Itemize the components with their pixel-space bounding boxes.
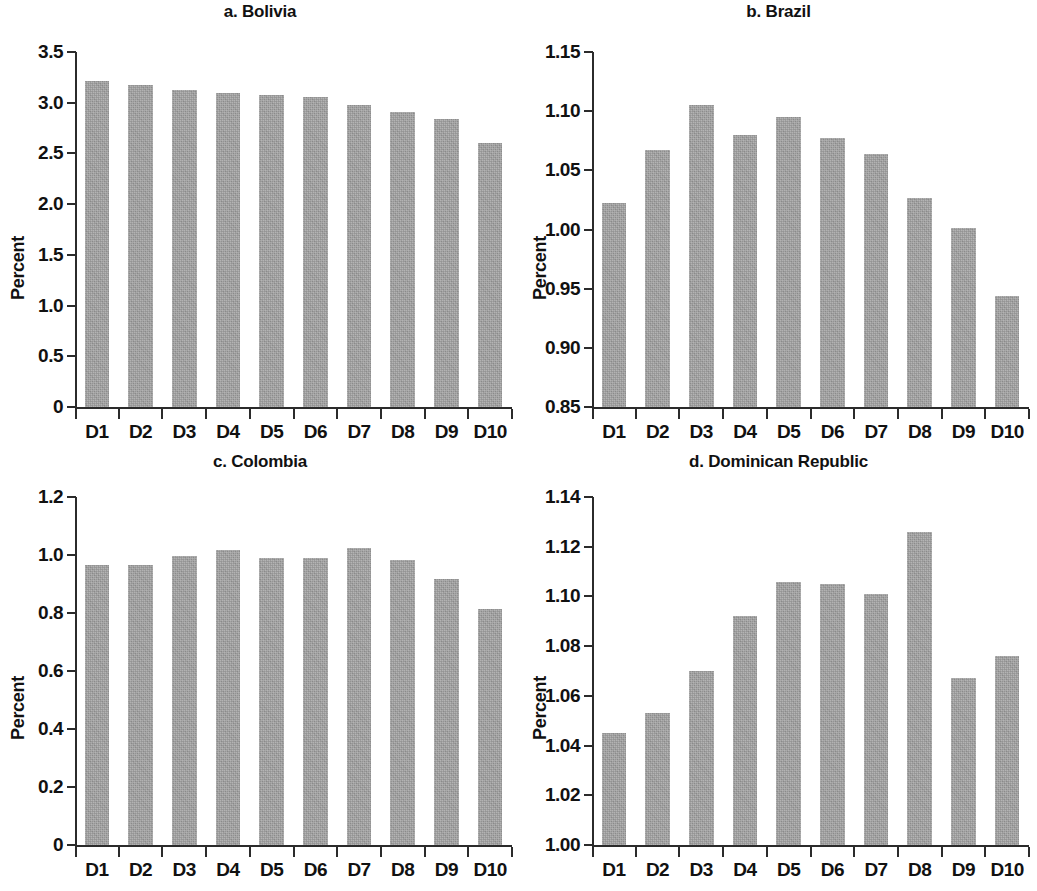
x-tick-label: D1 bbox=[85, 421, 108, 443]
y-tick-mark bbox=[584, 794, 593, 796]
bar bbox=[776, 582, 801, 845]
x-tick-label: D5 bbox=[260, 859, 283, 881]
bar bbox=[820, 138, 845, 407]
x-tick-mark bbox=[380, 409, 382, 419]
y-tick-mark bbox=[584, 347, 593, 349]
x-tick-label: D9 bbox=[435, 421, 458, 443]
x-tick-mark bbox=[511, 847, 513, 857]
x-tick-label: D5 bbox=[777, 421, 800, 443]
x-tick-mark bbox=[118, 409, 120, 419]
y-tick-mark bbox=[67, 51, 76, 53]
y-tick-label: 2.0 bbox=[1, 193, 63, 215]
x-tick-label: D10 bbox=[990, 859, 1023, 881]
bar bbox=[951, 228, 976, 407]
x-tick-label: D8 bbox=[908, 859, 931, 881]
panel-title: d. Dominican Republic bbox=[520, 452, 1037, 472]
bar bbox=[128, 85, 153, 407]
bar bbox=[864, 154, 889, 407]
y-tick-mark bbox=[584, 169, 593, 171]
figure-grid: a. Bolivia Percent 00.51.01.52.02.53.03.… bbox=[0, 0, 1037, 891]
bar bbox=[303, 558, 328, 845]
x-tick-mark bbox=[293, 847, 295, 857]
x-tick-label: D10 bbox=[473, 421, 506, 443]
y-tick-mark bbox=[584, 51, 593, 53]
bar bbox=[478, 143, 503, 407]
x-tick-mark bbox=[467, 847, 469, 857]
x-tick-mark bbox=[853, 409, 855, 419]
y-tick-mark bbox=[67, 406, 76, 408]
panel-title: b. Brazil bbox=[520, 2, 1037, 22]
bar bbox=[776, 117, 801, 407]
x-tick-label: D6 bbox=[304, 421, 327, 443]
x-tick-label: D1 bbox=[602, 859, 625, 881]
bar bbox=[85, 565, 110, 845]
bar bbox=[259, 95, 284, 407]
y-tick-label: 1.14 bbox=[514, 486, 580, 508]
y-tick-label: 1.2 bbox=[1, 486, 63, 508]
y-tick-label: 0.90 bbox=[514, 337, 580, 359]
bar bbox=[733, 135, 758, 407]
y-tick-label: 1.5 bbox=[1, 244, 63, 266]
x-tick-label: D2 bbox=[129, 421, 152, 443]
panel-title: c. Colombia bbox=[0, 452, 520, 472]
x-tick-mark bbox=[941, 847, 943, 857]
x-tick-mark bbox=[205, 409, 207, 419]
x-tick-mark-origin bbox=[592, 409, 594, 419]
y-tick-label: 0.4 bbox=[1, 718, 63, 740]
y-tick-label: 1.00 bbox=[514, 834, 580, 856]
bar bbox=[995, 296, 1020, 407]
y-tick-mark bbox=[584, 496, 593, 498]
plot-area: 00.20.40.60.81.01.2D1D2D3D4D5D6D7D8D9D10 bbox=[75, 497, 512, 845]
x-tick-label: D7 bbox=[864, 421, 887, 443]
y-tick-label: 1.06 bbox=[514, 685, 580, 707]
y-tick-mark bbox=[67, 102, 76, 104]
x-tick-label: D10 bbox=[473, 859, 506, 881]
x-tick-mark bbox=[635, 409, 637, 419]
x-tick-mark-origin bbox=[592, 847, 594, 857]
x-tick-label: D7 bbox=[864, 859, 887, 881]
x-tick-label: D3 bbox=[173, 859, 196, 881]
bar bbox=[259, 558, 284, 845]
x-tick-mark bbox=[722, 847, 724, 857]
bar bbox=[390, 112, 415, 407]
x-tick-mark bbox=[941, 409, 943, 419]
y-tick-mark bbox=[67, 254, 76, 256]
y-tick-label: 1.10 bbox=[514, 100, 580, 122]
y-tick-label: 0 bbox=[1, 834, 63, 856]
bar bbox=[434, 119, 459, 407]
x-tick-mark bbox=[1028, 409, 1030, 419]
bar bbox=[820, 584, 845, 845]
plot-area: 1.001.021.041.061.081.101.121.14D1D2D3D4… bbox=[592, 497, 1029, 845]
y-tick-label: 1.15 bbox=[514, 41, 580, 63]
bar bbox=[951, 678, 976, 845]
bar bbox=[864, 594, 889, 845]
x-tick-mark bbox=[766, 847, 768, 857]
x-tick-label: D6 bbox=[821, 421, 844, 443]
x-tick-label: D2 bbox=[129, 859, 152, 881]
x-tick-label: D7 bbox=[347, 859, 370, 881]
y-tick-label: 1.0 bbox=[1, 544, 63, 566]
x-tick-mark bbox=[1028, 847, 1030, 857]
plot-area: 00.51.01.52.02.53.03.5D1D2D3D4D5D6D7D8D9… bbox=[75, 52, 512, 407]
y-tick-mark bbox=[584, 288, 593, 290]
y-tick-mark bbox=[584, 595, 593, 597]
y-tick-mark bbox=[67, 670, 76, 672]
x-tick-label: D9 bbox=[952, 421, 975, 443]
y-tick-label: 0.5 bbox=[1, 345, 63, 367]
x-tick-mark bbox=[897, 409, 899, 419]
x-tick-mark bbox=[766, 409, 768, 419]
y-tick-label: 1.12 bbox=[514, 536, 580, 558]
y-tick-label: 0.2 bbox=[1, 776, 63, 798]
y-axis-line bbox=[592, 497, 594, 845]
y-tick-label: 1.04 bbox=[514, 735, 580, 757]
y-tick-mark bbox=[67, 554, 76, 556]
x-tick-mark bbox=[467, 409, 469, 419]
bar bbox=[689, 105, 714, 407]
x-tick-mark bbox=[984, 409, 986, 419]
x-tick-mark-origin bbox=[75, 847, 77, 857]
x-tick-mark bbox=[810, 409, 812, 419]
y-tick-mark bbox=[584, 844, 593, 846]
x-tick-label: D9 bbox=[435, 859, 458, 881]
y-tick-mark bbox=[67, 728, 76, 730]
x-tick-label: D1 bbox=[602, 421, 625, 443]
